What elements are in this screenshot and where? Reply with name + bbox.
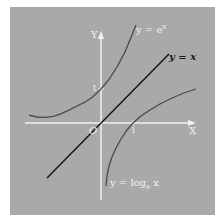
- y-axis-label: Y: [91, 30, 98, 40]
- identity-line: [47, 54, 169, 178]
- identity-line-label: y = x: [169, 52, 196, 62]
- exp-label-text: y = e: [136, 24, 162, 35]
- y-tick-label: 1: [92, 85, 97, 93]
- x-axis-label: X: [189, 126, 196, 136]
- y-axis-arrow-icon: [98, 31, 104, 39]
- log-curve-label: y = loge x: [110, 178, 159, 191]
- x-tick-label: 1: [131, 127, 136, 135]
- exp-label-sup: x: [162, 23, 166, 31]
- exp-curve-label: y = ex: [136, 24, 166, 35]
- origin-label: O: [89, 126, 97, 136]
- log-label-text: y = log: [110, 177, 146, 188]
- log-label-x: x: [150, 177, 159, 188]
